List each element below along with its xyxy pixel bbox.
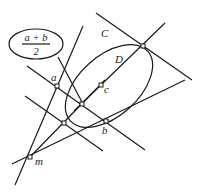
point-midpoint [80,102,84,106]
point-m [28,155,32,159]
label-c-curve: C [101,27,109,39]
label-m: m [35,155,43,167]
point-a [55,84,59,88]
point-b [104,119,108,123]
formula-pointer [58,57,82,102]
line-m-a [15,26,83,185]
label-c-point: c [104,83,109,95]
point-lower-left [62,121,66,125]
label-d-line: D [114,53,123,65]
label-b: b [102,124,108,136]
point-c [99,83,103,87]
formula-numerator: a + b [25,32,48,43]
geometry-diagram: a + b 2 C D a c b m [0,0,202,193]
tangent-line-lower [12,80,185,164]
label-a: a [51,71,57,83]
point-tangent-top [141,44,145,48]
formula-denominator: 2 [33,46,39,57]
line-m-lowerleft [30,80,105,157]
